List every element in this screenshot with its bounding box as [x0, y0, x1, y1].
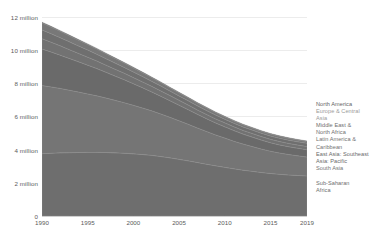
x-tick-label: 2000	[126, 219, 140, 226]
x-tick-label: 1995	[81, 219, 95, 226]
y-tick-label: 10 million	[0, 46, 38, 53]
legend-entry[interactable]: East Asia: Southeast Asia: Pacific	[316, 151, 379, 165]
y-tick-label: 2 million	[0, 179, 38, 186]
x-tick-label: 1990	[35, 219, 49, 226]
legend-entry[interactable]: North America	[316, 101, 379, 108]
legend-entry[interactable]: Sub-Saharan Africa	[316, 180, 379, 194]
legend-entry[interactable]: Latin America & Caribbean	[316, 136, 379, 150]
x-tick-label: 2005	[172, 219, 186, 226]
legend-spacer	[316, 172, 379, 180]
chart-legend: North AmericaEurope & Central AsiaMiddle…	[316, 101, 379, 194]
x-tick-label: 2015	[264, 219, 278, 226]
legend-entry[interactable]: Middle East & North Africa	[316, 122, 379, 136]
stacked-area-series	[42, 0, 307, 216]
x-tick-label: 2010	[218, 219, 232, 226]
y-axis: 02 million4 million6 million8 million10 …	[0, 0, 38, 238]
y-tick-label: 12 million	[0, 13, 38, 20]
x-axis: 1990199520002005201020152019	[0, 219, 379, 238]
y-tick-label: 4 million	[0, 146, 38, 153]
y-tick-label: 6 million	[0, 113, 38, 120]
legend-entry[interactable]: Europe & Central Asia	[316, 108, 379, 122]
chart-container: 02 million4 million6 million8 million10 …	[0, 0, 379, 238]
legend-entry[interactable]: South Asia	[316, 165, 379, 172]
plot-area	[42, 0, 307, 216]
y-tick-label: 8 million	[0, 80, 38, 87]
x-tick-label: 2019	[300, 219, 314, 226]
x-axis-line	[42, 216, 307, 217]
